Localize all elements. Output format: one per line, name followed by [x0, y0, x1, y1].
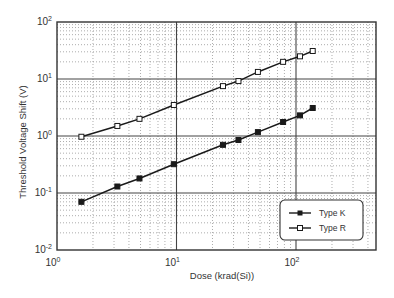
y-tick-label: 102 [37, 15, 52, 27]
filled-square-marker-icon [297, 113, 302, 118]
filled-square-marker-icon [310, 105, 315, 110]
x-tick-label: 102 [284, 256, 299, 268]
open-square-marker-icon [171, 102, 176, 107]
y-tick-label: 100 [37, 129, 52, 141]
filled-square-marker-icon [221, 142, 226, 147]
filled-square-marker-icon [79, 199, 84, 204]
x-tick-label: 100 [45, 256, 60, 268]
open-square-marker-icon [79, 134, 84, 139]
x-axis-ticks: 100101102 [45, 256, 299, 268]
filled-square-marker-icon [298, 211, 303, 216]
filled-square-marker-icon [115, 184, 120, 189]
open-square-marker-icon [297, 54, 302, 59]
y-axis-label: Threshold Voltage Shift (V) [17, 85, 28, 199]
filled-square-marker-icon [236, 138, 241, 143]
chart: 100101102 10-210-1100101102 Dose (krad(S… [0, 0, 394, 298]
x-axis-label: Dose (krad(Si)) [190, 270, 254, 281]
y-axis-ticks: 10-210-1100101102 [35, 15, 52, 255]
series-layer [79, 48, 315, 204]
legend: Type K Type R [280, 200, 363, 240]
open-square-marker-icon [137, 116, 142, 121]
y-tick-label: 10-1 [35, 186, 52, 198]
open-square-marker-icon [221, 84, 226, 89]
open-square-marker-icon [298, 226, 303, 231]
filled-square-marker-icon [137, 176, 142, 181]
filled-square-marker-icon [281, 120, 286, 125]
legend-label: Type K [319, 208, 346, 218]
y-tick-label: 101 [37, 72, 52, 84]
open-square-marker-icon [255, 69, 260, 74]
open-square-marker-icon [115, 123, 120, 128]
filled-square-marker-icon [255, 130, 260, 135]
open-square-marker-icon [310, 48, 315, 53]
open-square-marker-icon [281, 59, 286, 64]
x-tick-label: 101 [165, 256, 180, 268]
legend-box [280, 200, 363, 240]
filled-square-marker-icon [171, 162, 176, 167]
y-tick-label: 10-2 [35, 243, 52, 255]
legend-label: Type R [319, 223, 346, 233]
open-square-marker-icon [236, 79, 241, 84]
